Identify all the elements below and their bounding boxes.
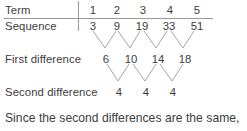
term-value-2: 2 — [114, 4, 120, 17]
second-difference-value-2: 4 — [143, 86, 149, 99]
term-value-3: 3 — [140, 4, 146, 17]
second-difference-value-3: 4 — [170, 86, 176, 99]
row-label-term: Term — [5, 4, 31, 17]
conclusion-text: Since the second differences are the sam… — [5, 111, 240, 125]
first-difference-value-1: 6 — [103, 53, 109, 66]
row-label-first-difference: First difference — [5, 53, 81, 66]
connector-first-to-second — [107, 64, 183, 81]
term-value-5: 5 — [194, 4, 200, 17]
sequence-value-5: 51 — [191, 20, 204, 33]
first-difference-value-2: 10 — [125, 53, 138, 66]
row-label-second-difference: Second difference — [5, 86, 98, 99]
connector-sequence-to-first — [93, 31, 194, 48]
first-difference-value-4: 18 — [179, 53, 192, 66]
sequence-value-1: 3 — [90, 20, 96, 33]
second-difference-value-1: 4 — [116, 86, 122, 99]
sequence-value-3: 19 — [136, 20, 149, 33]
term-value-4: 4 — [167, 4, 173, 17]
sequence-value-2: 9 — [114, 20, 120, 33]
sequence-value-4: 33 — [163, 20, 176, 33]
difference-table-figure: Term 1 2 3 4 5 Sequence 3 9 19 33 51 Fir… — [0, 0, 247, 131]
first-difference-value-3: 14 — [152, 53, 165, 66]
term-value-1: 1 — [90, 4, 96, 17]
row-label-sequence: Sequence — [5, 20, 57, 33]
